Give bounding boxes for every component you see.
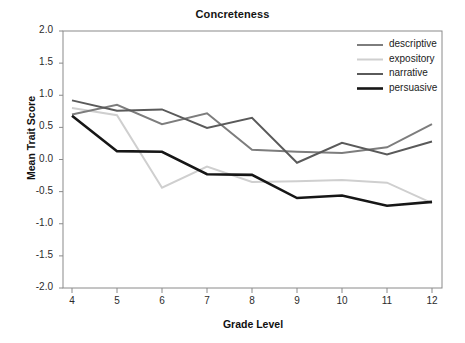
x-tick-label: 9 [285,295,309,306]
x-tick-label: 12 [420,295,444,306]
legend-label-narrative: narrative [389,67,428,78]
x-tick-label: 6 [150,295,174,306]
y-tick-label: 1.0 [19,88,53,99]
plot-frame [63,31,442,288]
y-tick-label: 2.0 [19,24,53,35]
x-tick-label: 10 [330,295,354,306]
x-tick-label: 8 [240,295,264,306]
x-tick-label: 4 [60,295,84,306]
y-tick-label: 1.5 [19,56,53,67]
y-tick-label: 0.5 [19,120,53,131]
y-tick-label: -1.0 [19,217,53,228]
legend-label-persuasive: persuasive [389,82,437,93]
chart-container: Concreteness Mean Trait Score Grade Leve… [0,0,465,343]
y-tick-label: -1.5 [19,249,53,260]
series-line-expository [72,108,432,203]
plot-area [0,0,465,343]
y-tick-label: -0.5 [19,185,53,196]
legend-label-expository: expository [389,53,435,64]
x-tick-label: 7 [195,295,219,306]
y-tick-label: -2.0 [19,281,53,292]
legend-label-descriptive: descriptive [389,38,437,49]
x-tick-label: 5 [105,295,129,306]
x-tick-label: 11 [375,295,399,306]
y-tick-label: 0.0 [19,153,53,164]
x-axis-label: Grade Level [63,318,443,330]
